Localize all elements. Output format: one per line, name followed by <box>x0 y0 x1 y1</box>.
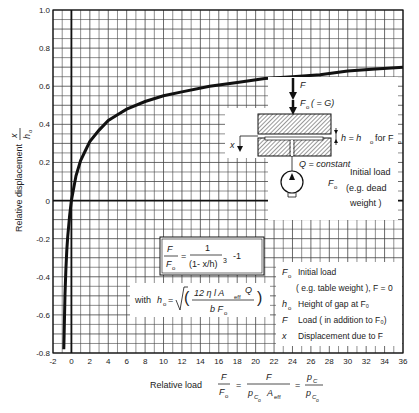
svg-text:o: o <box>316 397 319 403</box>
y-axis-label-text: Relative displacement <box>14 143 24 232</box>
svg-text:F: F <box>221 372 227 382</box>
svg-text:Q: Q <box>245 285 252 295</box>
svg-text:b F: b F <box>210 304 224 314</box>
svg-text:Initial load: Initial load <box>298 267 337 277</box>
x-tick-label: 24 <box>288 357 297 366</box>
svg-text:for F: for F <box>375 133 394 143</box>
svg-text:x: x <box>229 140 235 150</box>
svg-text:weight ): weight ) <box>349 198 382 208</box>
x-tick-label: 4 <box>106 357 111 366</box>
y-tick-label: 0.8 <box>39 44 51 53</box>
svg-text:(: ( <box>184 289 190 306</box>
inset-diagram: F F o ( = G) x h = h o for F o <box>225 77 402 220</box>
x-tick-label: 8 <box>143 357 148 366</box>
svg-text:eff: eff <box>234 294 241 300</box>
y-tick-label: 1.0 <box>39 6 51 15</box>
svg-text:1: 1 <box>205 243 210 253</box>
gap-formula: with h o = ( ) 12 η l A eff Q b F o <box>130 283 270 317</box>
svg-text:): ) <box>257 289 262 306</box>
svg-text:=: = <box>181 251 186 261</box>
y-tick-label: 0.2 <box>39 158 51 167</box>
y-tick-label: -0.2 <box>36 235 50 244</box>
svg-text:( = G): ( = G) <box>311 98 334 108</box>
x-tick-label: 6 <box>124 357 129 366</box>
svg-text:o: o <box>225 393 229 399</box>
x-tick-label: 18 <box>233 357 242 366</box>
svg-text:Load ( in addition to F₀): Load ( in addition to F₀) <box>298 315 387 325</box>
chart-svg: -2024681012141618202224262830323436-0.8-… <box>0 0 419 413</box>
svg-text:eff: eff <box>274 394 281 400</box>
x-tick-label: 32 <box>362 357 371 366</box>
x-tick-label: 12 <box>177 357 186 366</box>
svg-text:3: 3 <box>223 257 227 264</box>
y-axis-label: Relative displacement x h o <box>9 128 33 232</box>
svg-text:=: = <box>168 295 173 305</box>
inset-F-label: F <box>300 80 306 90</box>
svg-text:(1- x/h): (1- x/h) <box>189 259 218 269</box>
x-tick-label: 28 <box>325 357 334 366</box>
x-tick-label: 22 <box>270 357 279 366</box>
svg-text:h: h <box>282 299 287 309</box>
x-tick-label: 20 <box>251 357 260 366</box>
svg-text:o: o <box>398 139 402 145</box>
svg-text:with: with <box>134 295 151 305</box>
svg-text:o: o <box>27 129 33 133</box>
y-tick-label: -0.4 <box>36 273 50 282</box>
svg-text:C: C <box>313 378 318 384</box>
x-tick-label: 34 <box>380 357 389 366</box>
svg-text:p: p <box>305 388 311 398</box>
legend-item: ( e.g. table weight ), F = 0 <box>296 283 393 293</box>
svg-text:p: p <box>247 388 253 398</box>
x-axis-label-text: Relative load <box>150 380 202 390</box>
y-tick-label: -0.6 <box>36 311 50 320</box>
svg-text:F: F <box>266 372 272 382</box>
y-tick-label: 0 <box>46 197 51 206</box>
y-tick-label: -0.8 <box>36 349 50 358</box>
y-tick-label: 0.6 <box>39 82 51 91</box>
formula-box: F F o = 1 (1- x/h) 3 -1 <box>160 237 264 275</box>
svg-text:-1: -1 <box>233 251 241 261</box>
x-tick-label: 16 <box>214 357 223 366</box>
x-tick-label: 0 <box>69 357 74 366</box>
y-tick-label: 0.4 <box>39 120 51 129</box>
svg-text:p: p <box>306 372 312 382</box>
x-tick-label: -2 <box>49 357 57 366</box>
svg-text:F: F <box>167 244 173 254</box>
x-tick-label: 10 <box>159 357 168 366</box>
svg-text:12 η l A: 12 η l A <box>194 288 224 298</box>
x-tick-label: 2 <box>88 357 93 366</box>
y-axis-frac-num: x <box>9 133 19 139</box>
svg-text:h = h: h = h <box>341 133 361 143</box>
svg-text:A: A <box>266 388 273 398</box>
x-tick-label: 26 <box>306 357 315 366</box>
svg-text:Height of gap at F₀: Height of gap at F₀ <box>298 299 370 309</box>
legend: FoInitial load( e.g. table weight ), F =… <box>276 262 402 346</box>
svg-text:=: = <box>295 380 300 390</box>
base-block <box>258 138 331 156</box>
x-axis-label: Relative load F F o = F p C o A eff = p … <box>150 372 323 403</box>
x-tick-label: 30 <box>343 357 352 366</box>
svg-text:=: = <box>236 380 241 390</box>
svg-text:o: o <box>258 397 261 403</box>
svg-text:( e.g. table weight ), F = 0: ( e.g. table weight ), F = 0 <box>296 283 393 293</box>
legend-item: FLoad ( in addition to F₀) <box>282 315 387 325</box>
svg-text:Q = constant: Q = constant <box>299 159 351 169</box>
x-tick-label: 36 <box>399 357 408 366</box>
svg-text:Initial load: Initial load <box>350 167 391 177</box>
svg-text:x: x <box>281 331 287 341</box>
svg-text:(e.g. dead: (e.g. dead <box>346 183 387 193</box>
y-axis-frac-den: h <box>22 134 32 139</box>
svg-text:h: h <box>157 295 162 305</box>
svg-text:Displacement due to F: Displacement due to F <box>298 331 383 341</box>
table-block <box>258 114 331 134</box>
svg-text:F: F <box>282 315 288 325</box>
x-tick-label: 14 <box>196 357 205 366</box>
